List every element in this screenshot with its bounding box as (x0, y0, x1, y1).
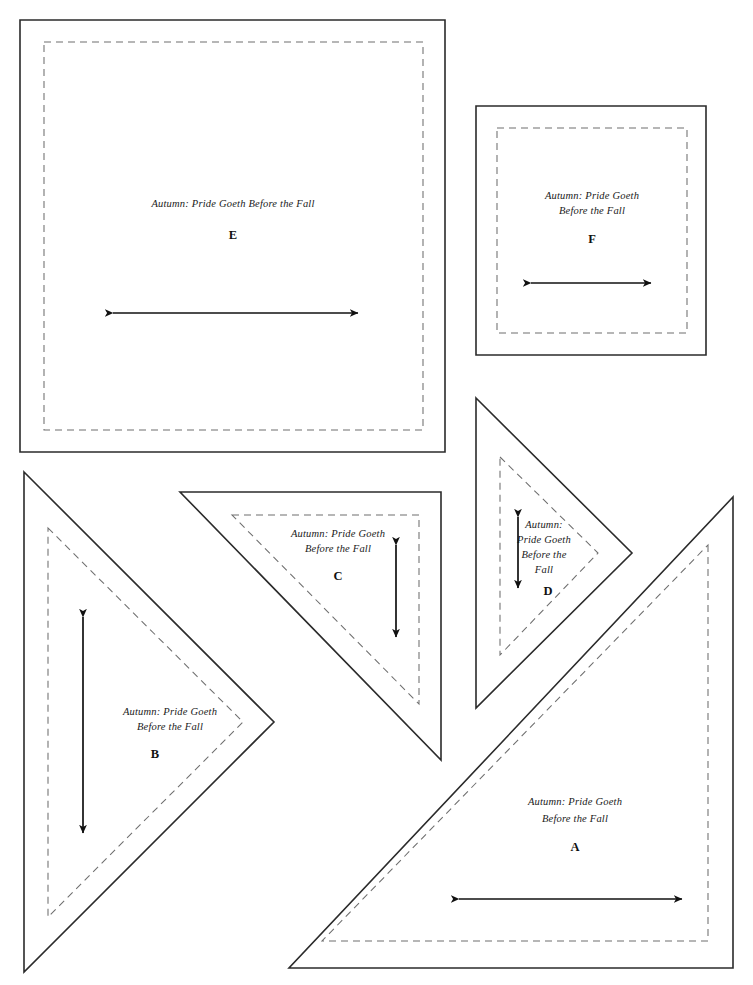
piece-c-pattern-text-line1: Autumn: Pride Goeth (290, 528, 385, 539)
piece-d-letter: D (543, 584, 552, 598)
piece-d-pattern-text-line3: Before the (521, 549, 566, 560)
piece-b-pattern-text-line1: Autumn: Pride Goeth (122, 706, 217, 717)
piece-b-group[interactable]: Autumn: Pride Goeth Before the Fall B (24, 472, 274, 972)
piece-e-group[interactable]: Autumn: Pride Goeth Before the Fall E (20, 20, 445, 452)
piece-f-group[interactable]: Autumn: Pride Goeth Before the Fall F (476, 106, 706, 355)
piece-d-pattern-text-line4: Fall (534, 564, 553, 575)
piece-f-pattern-text-line1: Autumn: Pride Goeth (544, 190, 639, 201)
piece-e-letter: E (229, 228, 237, 242)
piece-d-group[interactable]: Autumn: Pride Goeth Before the Fall D (476, 398, 632, 708)
piece-c-pattern-text-line2: Before the Fall (305, 543, 371, 554)
piece-d-pattern-text-line1: Autumn: (524, 519, 563, 530)
piece-b-letter: B (151, 747, 159, 761)
piece-a-pattern-text-line2: Before the Fall (542, 813, 608, 824)
piece-f-seam-line (497, 128, 687, 333)
piece-f-cut-line (476, 106, 706, 355)
piece-c-letter: C (333, 569, 342, 583)
piece-a-pattern-text-line1: Autumn: Pride Goeth (527, 796, 622, 807)
piece-e-pattern-text-line1: Autumn: Pride Goeth Before the Fall (150, 198, 314, 209)
piece-a-cut-line (289, 497, 733, 968)
piece-a-seam-line (322, 545, 708, 941)
piece-b-pattern-text-line2: Before the Fall (137, 721, 203, 732)
piece-a-group[interactable]: Autumn: Pride Goeth Before the Fall A (289, 497, 733, 968)
piece-f-letter: F (588, 232, 596, 246)
piece-f-pattern-text-line2: Before the Fall (559, 205, 625, 216)
pattern-sheet-page: Autumn: Pride Goeth Before the Fall E Au… (0, 0, 753, 985)
piece-c-group[interactable]: Autumn: Pride Goeth Before the Fall C (180, 492, 441, 760)
piece-d-pattern-text-line2: Pride Goeth (516, 534, 571, 545)
piece-a-letter: A (570, 840, 579, 854)
pattern-sheet-canvas: Autumn: Pride Goeth Before the Fall E Au… (0, 0, 753, 985)
